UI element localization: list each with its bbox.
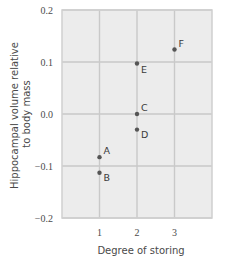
point-label: C [141, 102, 148, 113]
y-tick-label: −0.2 [35, 213, 53, 224]
y-axis-label-line-2: to body mass [21, 80, 32, 147]
y-tick-label: 0.2 [41, 5, 54, 16]
y-tick-label: 0.0 [41, 109, 54, 120]
point-marker [97, 171, 101, 175]
y-tick-label: −0.1 [35, 161, 53, 172]
point-marker [135, 112, 139, 116]
point-label: A [104, 145, 111, 156]
x-axis-label: Degree of storing [97, 245, 184, 256]
x-tick-label: 3 [172, 227, 177, 238]
y-axis-ticks: 0.20.10.0−0.1−0.2 [35, 5, 53, 224]
scatter-chart: 0.20.10.0−0.1−0.2 123 ABCDEF Degree of s… [0, 0, 225, 266]
point-marker [135, 61, 139, 65]
point-label: E [141, 64, 147, 75]
point-marker [135, 127, 139, 131]
point-label: F [179, 38, 184, 49]
x-tick-label: 1 [97, 227, 102, 238]
point-label: B [104, 172, 111, 183]
y-tick-label: 0.1 [41, 57, 54, 68]
x-tick-label: 2 [135, 227, 140, 238]
point-marker [172, 47, 176, 51]
point-label: D [141, 129, 148, 140]
y-axis-label-line-1: Hippocampal volume relative [9, 42, 20, 189]
y-axis-label: Hippocampal volume relative to body mass [9, 39, 32, 189]
point-marker [97, 155, 101, 159]
x-axis-ticks: 123 [97, 227, 177, 238]
